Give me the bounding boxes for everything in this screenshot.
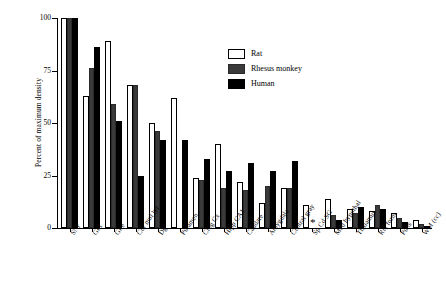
legend-label-rat: Rat	[251, 49, 262, 58]
legend-label-human: Human	[251, 79, 275, 88]
bar	[83, 96, 88, 228]
bar	[221, 188, 226, 228]
bar	[171, 98, 176, 228]
bar-group	[391, 18, 407, 228]
bar-group	[105, 18, 121, 228]
y-tick-label-50: 50	[27, 119, 51, 127]
legend-item-rhesus-monkey: Rhesus monkey	[228, 61, 302, 76]
bar	[111, 104, 116, 228]
bar-group	[193, 18, 209, 228]
legend-item-rat: Rat	[228, 46, 302, 61]
bar	[61, 18, 66, 228]
legend-item-human: Human	[228, 76, 302, 91]
y-tick-0	[52, 228, 57, 229]
bar	[204, 159, 209, 228]
bar	[160, 140, 165, 228]
bar	[182, 140, 187, 228]
bar	[89, 68, 94, 228]
bar-group	[413, 18, 429, 228]
bar	[127, 85, 132, 228]
bar	[67, 18, 72, 228]
bar	[413, 220, 418, 228]
bar-group	[347, 18, 363, 228]
bar	[287, 188, 292, 228]
y-tick-label-0: 0	[27, 224, 51, 232]
bar	[292, 161, 297, 228]
x-axis-labels: SNrGPiGPeCor mol lyrDgPutamenCing CxHipp…	[57, 232, 437, 292]
bar-group	[61, 18, 77, 228]
chart-legend: Rat Rhesus monkey Human	[228, 46, 302, 91]
y-tick-label-25: 25	[27, 172, 51, 180]
legend-swatch-human	[228, 79, 245, 89]
bar	[375, 205, 380, 228]
bar	[265, 186, 270, 228]
legend-label-rhesus-monkey: Rhesus monkey	[251, 64, 302, 73]
bar	[248, 163, 253, 228]
bar-chart-figure: Percent of maximum density 0255075100 * …	[0, 0, 446, 293]
bar	[116, 121, 121, 228]
legend-swatch-rhesus-monkey	[228, 64, 245, 74]
bar	[72, 18, 77, 228]
y-tick-label-100: 100	[27, 14, 51, 22]
bar-group	[83, 18, 99, 228]
bar	[199, 180, 204, 228]
bar-group: *	[303, 18, 319, 228]
bar	[105, 41, 110, 228]
bar	[94, 47, 99, 228]
bar-group	[127, 18, 143, 228]
bar-group	[171, 18, 187, 228]
bar-group	[325, 18, 341, 228]
bar-group	[149, 18, 165, 228]
bar-group	[369, 18, 385, 228]
legend-swatch-rat	[228, 49, 245, 59]
bar	[133, 85, 138, 228]
y-tick-label-75: 75	[27, 67, 51, 75]
bar	[331, 215, 336, 228]
